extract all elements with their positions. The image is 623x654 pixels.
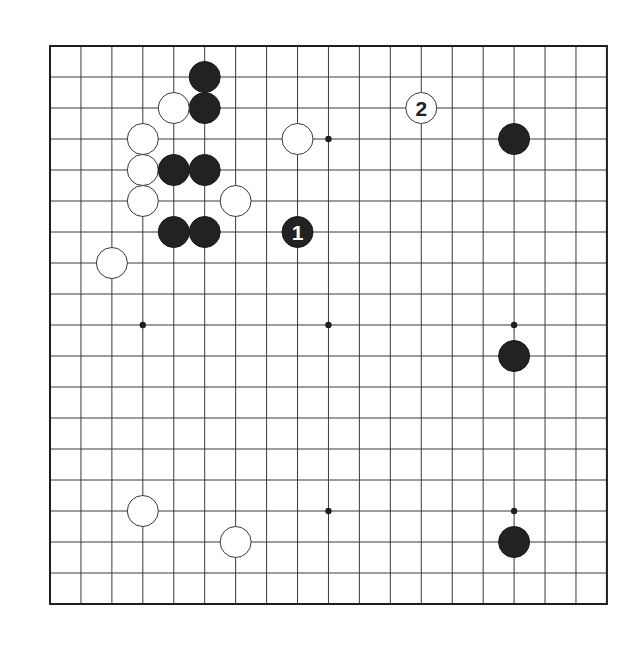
white-stone-circle <box>220 527 251 558</box>
go-board: 12 <box>0 0 623 654</box>
white-stone <box>158 93 189 124</box>
star-point <box>511 322 517 328</box>
white-stone-circle <box>127 124 158 155</box>
go-board-diagram: 12 <box>0 0 623 654</box>
black-stone-circle <box>499 527 530 558</box>
black-stone-circle <box>158 217 189 248</box>
white-stone-circle <box>220 186 251 217</box>
black-stone-circle <box>189 93 220 124</box>
star-point <box>325 322 331 328</box>
black-stone-circle <box>158 155 189 186</box>
black-stone-circle <box>499 124 530 155</box>
black-stone-circle <box>189 217 220 248</box>
star-point <box>511 508 517 514</box>
white-stone <box>127 186 158 217</box>
move-number-label: 1 <box>292 221 304 244</box>
black-stone-move-1: 1 <box>282 217 313 248</box>
black-stone-circle <box>499 341 530 372</box>
white-stone-circle <box>127 186 158 217</box>
white-stone-circle <box>96 248 127 279</box>
black-stone-circle <box>189 155 220 186</box>
black-stone <box>189 217 220 248</box>
black-stone-circle <box>189 62 220 93</box>
black-stone <box>158 217 189 248</box>
white-stone-circle <box>127 496 158 527</box>
star-point <box>325 136 331 142</box>
white-stone <box>282 124 313 155</box>
white-stone <box>127 124 158 155</box>
black-stone <box>189 93 220 124</box>
star-point <box>325 508 331 514</box>
black-stone <box>499 341 530 372</box>
black-stone <box>158 155 189 186</box>
white-stone-circle <box>158 93 189 124</box>
white-stone <box>127 155 158 186</box>
black-stone <box>189 155 220 186</box>
black-stone <box>499 124 530 155</box>
stones: 12 <box>96 62 529 558</box>
white-stone-circle <box>282 124 313 155</box>
star-point <box>140 322 146 328</box>
white-stone <box>96 248 127 279</box>
white-stone-move-2: 2 <box>406 93 437 124</box>
black-stone <box>499 527 530 558</box>
black-stone <box>189 62 220 93</box>
white-stone-circle <box>127 155 158 186</box>
white-stone <box>127 496 158 527</box>
white-stone <box>220 527 251 558</box>
move-number-label: 2 <box>415 97 427 120</box>
white-stone <box>220 186 251 217</box>
